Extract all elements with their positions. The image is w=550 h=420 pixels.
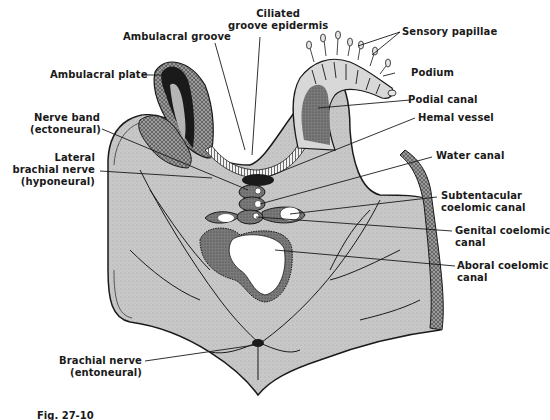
label-text: Ambulacral groove	[123, 31, 231, 42]
label-lateral-brachial-nerve: Lateral brachial nerve (hyponeural)	[8, 152, 95, 188]
label-genital-coelomic-canal: Genital coelomic canal	[455, 225, 550, 249]
label-text: Genital coelomic	[455, 225, 550, 237]
label-text: Subtentacular	[441, 190, 526, 202]
label-text: Ambulacral plate	[50, 69, 148, 80]
label-sensory-papillae: Sensory papillae	[402, 26, 497, 38]
label-text: groove epidermis	[228, 20, 328, 32]
label-text: (hyponeural)	[8, 176, 95, 188]
label-ambulacral-groove: Ambulacral groove	[123, 31, 231, 43]
label-subtentacular-coelomic-canal: Subtentacular coelomic canal	[441, 190, 526, 214]
label-ciliated-groove-epidermis: Ciliated groove epidermis	[228, 8, 328, 32]
label-text: Ciliated	[228, 8, 328, 20]
label-text: Aboral coelomic	[457, 260, 549, 272]
label-text: (ectoneural)	[30, 124, 100, 136]
label-text: Podial canal	[408, 94, 478, 105]
label-text: canal	[457, 272, 549, 284]
label-water-canal: Water canal	[436, 150, 504, 162]
figure-caption: Fig. 27-10	[37, 410, 94, 420]
label-text: coelomic canal	[441, 202, 526, 214]
label-text: Sensory papillae	[402, 26, 497, 37]
label-hemal-vessel: Hemal vessel	[418, 112, 494, 124]
label-ambulacral-plate: Ambulacral plate	[50, 69, 148, 81]
label-nerve-band: Nerve band (ectoneural)	[30, 112, 100, 136]
label-text: Brachial nerve	[38, 355, 142, 367]
label-text: Nerve band	[30, 112, 100, 124]
label-text: brachial nerve	[8, 164, 95, 176]
label-text: Podium	[411, 67, 454, 78]
label-text: canal	[455, 237, 550, 249]
brachial-nerve-node	[252, 339, 264, 347]
label-text: Water canal	[436, 150, 504, 161]
label-aboral-coelomic-canal: Aboral coelomic canal	[457, 260, 549, 284]
label-podial-canal: Podial canal	[408, 94, 478, 106]
label-brachial-nerve: Brachial nerve (entoneural)	[38, 355, 142, 379]
label-text: (entoneural)	[38, 367, 142, 379]
label-podium: Podium	[411, 67, 454, 79]
label-text: Hemal vessel	[418, 112, 494, 123]
label-text: Lateral	[8, 152, 95, 164]
